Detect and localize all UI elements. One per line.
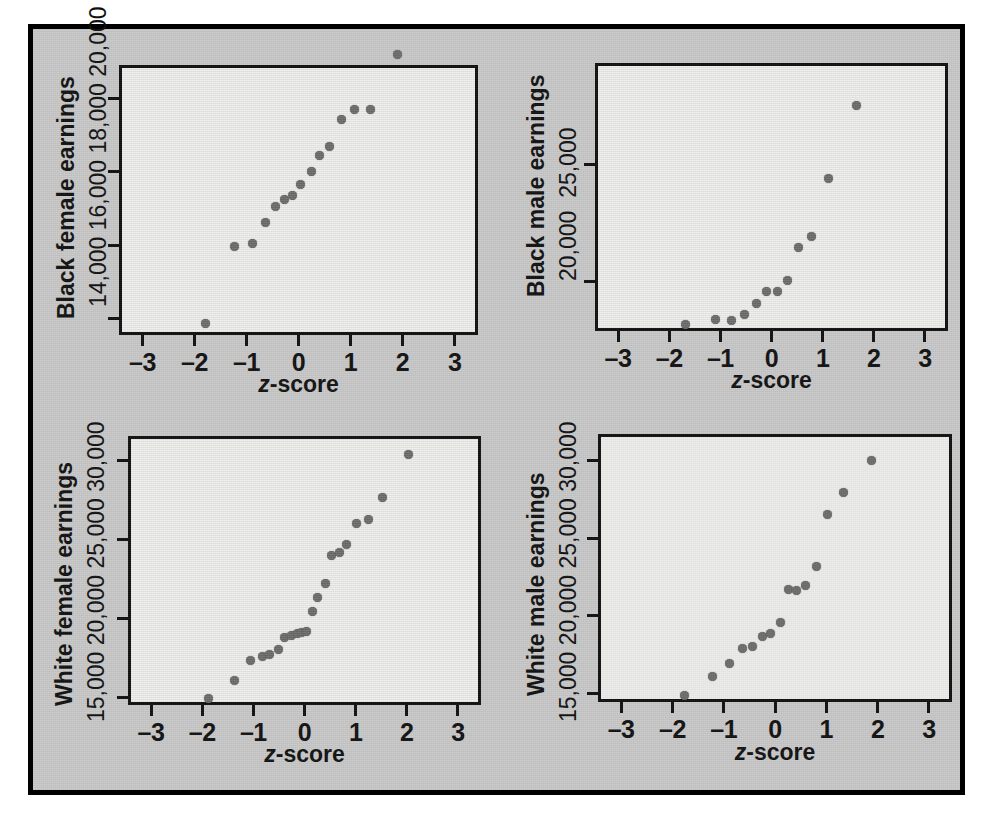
- data-point: [366, 105, 375, 114]
- x-axis-tick: [201, 705, 204, 716]
- data-point: [852, 101, 861, 110]
- data-point: [204, 694, 213, 703]
- x-axis-tick: [193, 335, 196, 346]
- data-point: [201, 319, 210, 328]
- plot-area-1: [595, 63, 948, 331]
- x-axis-tick: [774, 702, 777, 713]
- y-axis-tick-labels-1: 20,000 25,000: [555, 128, 582, 282]
- x-axis-tick: [668, 331, 671, 342]
- x-axis-title-0: z-score: [119, 371, 478, 398]
- y-axis-tick: [117, 538, 128, 541]
- data-point: [766, 629, 775, 638]
- data-point: [230, 676, 239, 685]
- panel-black-female-earnings: Black female earnings 14,000 16,000 18,0…: [33, 29, 503, 414]
- data-point: [725, 659, 734, 668]
- data-point: [342, 540, 351, 549]
- plot-area-2: [128, 436, 481, 705]
- y-axis-tick: [117, 617, 128, 620]
- data-point: [748, 642, 757, 651]
- x-axis-tick: [354, 705, 357, 716]
- y-axis-tick: [587, 459, 598, 462]
- data-point: [274, 645, 283, 654]
- y-axis-tick: [587, 537, 598, 540]
- panel-white-male-earnings: White male earnings 15,000 20,000 25,000…: [503, 414, 960, 794]
- x-axis-tick: [770, 331, 773, 342]
- data-point: [364, 515, 373, 524]
- y-axis-tick: [108, 317, 119, 320]
- data-point: [839, 488, 848, 497]
- data-point: [794, 243, 803, 252]
- data-point: [740, 310, 749, 319]
- x-axis-tick: [401, 335, 404, 346]
- x-axis-tick: [821, 331, 824, 342]
- x-axis-tick: [872, 331, 875, 342]
- data-point: [762, 287, 771, 296]
- y-axis-tick-labels-3: 15,000 20,000 25,000 30,000: [555, 421, 582, 722]
- x-axis-tick: [617, 331, 620, 342]
- data-point: [248, 239, 257, 248]
- plot-area-0: [119, 65, 478, 335]
- x-axis-tick: [825, 702, 828, 713]
- data-point: [752, 299, 761, 308]
- y-axis-title-1: Black male earnings: [523, 75, 550, 297]
- data-point: [823, 510, 832, 519]
- data-point: [758, 632, 767, 641]
- y-axis-tick: [108, 97, 119, 100]
- data-point: [325, 142, 334, 151]
- data-point: [792, 586, 801, 595]
- y-axis-tick: [584, 163, 595, 166]
- data-point: [302, 627, 311, 636]
- data-point: [812, 562, 821, 571]
- y-axis-tick: [117, 696, 128, 699]
- plot-area-3: [598, 434, 952, 702]
- data-point: [393, 50, 402, 59]
- x-axis-title-1: z-score: [595, 367, 948, 394]
- data-point: [288, 191, 297, 200]
- data-point: [711, 315, 720, 324]
- y-axis-tick: [117, 459, 128, 462]
- data-point: [246, 656, 255, 665]
- data-point: [404, 450, 413, 459]
- data-point: [271, 202, 280, 211]
- data-point: [807, 232, 816, 241]
- x-axis-tick: [923, 331, 926, 342]
- x-axis-tick: [453, 335, 456, 346]
- y-axis-title-2: White female earnings: [51, 462, 78, 706]
- data-point: [727, 316, 736, 325]
- x-axis-tick: [456, 705, 459, 716]
- data-point: [307, 167, 316, 176]
- data-point: [801, 581, 810, 590]
- data-point: [378, 493, 387, 502]
- data-point: [783, 276, 792, 285]
- data-point: [337, 115, 346, 124]
- x-axis-tick: [719, 331, 722, 342]
- x-axis-tick: [722, 702, 725, 713]
- x-axis-tick: [405, 705, 408, 716]
- x-axis-tick: [349, 335, 352, 346]
- data-point: [352, 519, 361, 528]
- y-axis-title-0: Black female earnings: [53, 76, 80, 319]
- data-point: [708, 672, 717, 681]
- x-axis-tick: [671, 702, 674, 713]
- x-axis-tick: [245, 335, 248, 346]
- data-point: [350, 105, 359, 114]
- data-point: [261, 218, 270, 227]
- x-axis-title-3: z-score: [598, 739, 952, 766]
- x-axis-tick: [620, 702, 623, 713]
- data-point: [335, 548, 344, 557]
- x-axis-tick: [297, 335, 300, 346]
- y-axis-tick: [587, 614, 598, 617]
- data-point: [773, 287, 782, 296]
- y-axis-tick-labels-2: 15,000 20,000 25,000 30,000: [83, 421, 110, 722]
- x-axis-tick: [141, 335, 144, 346]
- figure-frame: Black female earnings 14,000 16,000 18,0…: [28, 24, 965, 795]
- x-axis-title-2: z-score: [128, 741, 481, 768]
- data-point: [265, 650, 274, 659]
- data-point: [321, 579, 330, 588]
- data-point: [308, 607, 317, 616]
- data-point: [230, 242, 239, 251]
- data-point: [680, 691, 689, 700]
- data-point: [681, 320, 690, 329]
- y-axis-title-3: White male earnings: [523, 472, 550, 696]
- y-axis-tick: [108, 244, 119, 247]
